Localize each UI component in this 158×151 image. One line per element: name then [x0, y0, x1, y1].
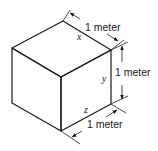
- cube: [12, 21, 111, 131]
- x-arrow-back: [70, 13, 80, 19]
- y-dimension-label: 1 meter: [115, 66, 151, 78]
- cube-diagram: 1 meter x 1 meter y 1 meter z: [0, 0, 158, 151]
- cube-front-face: [12, 48, 61, 131]
- x-extension-line-back: [63, 10, 70, 21]
- z-arrow-right: [106, 110, 117, 117]
- z-dimension: 1 meter z: [61, 104, 126, 144]
- z-arrow-left: [72, 131, 82, 137]
- x-dimension-label: 1 meter: [85, 21, 121, 33]
- z-extension-line-right: [111, 104, 126, 113]
- z-extension-line-left: [61, 131, 80, 144]
- z-variable-label: z: [83, 104, 88, 115]
- x-variable-label: x: [76, 31, 82, 42]
- z-dimension-label: 1 meter: [87, 118, 123, 130]
- x-dimension: 1 meter x: [63, 10, 124, 50]
- y-variable-label: y: [101, 73, 107, 84]
- x-arrow-front: [107, 34, 118, 41]
- y-extension-line-bottom: [111, 96, 128, 104]
